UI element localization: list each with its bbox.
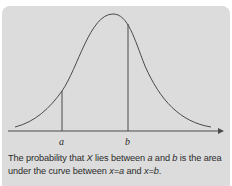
caption-text: The probability that (8, 153, 87, 163)
caption-text: is the area (177, 153, 221, 163)
caption-text: under the curve between (8, 166, 109, 176)
marker-label-a: a (59, 136, 64, 147)
caption-expr-x-eq-a: x=a (109, 166, 124, 176)
bell-curve (15, 14, 211, 127)
caption-text: and (152, 153, 172, 163)
caption-text: and (124, 166, 144, 176)
caption-text: lies between (93, 153, 148, 163)
marker-label-b: b (125, 136, 130, 147)
caption-text: . (159, 166, 161, 176)
caption-expr-x-eq-b: x=b (144, 166, 159, 176)
figure-caption: The probability that X lies between a an… (8, 152, 228, 177)
x-axis-arrow-icon (218, 128, 224, 134)
